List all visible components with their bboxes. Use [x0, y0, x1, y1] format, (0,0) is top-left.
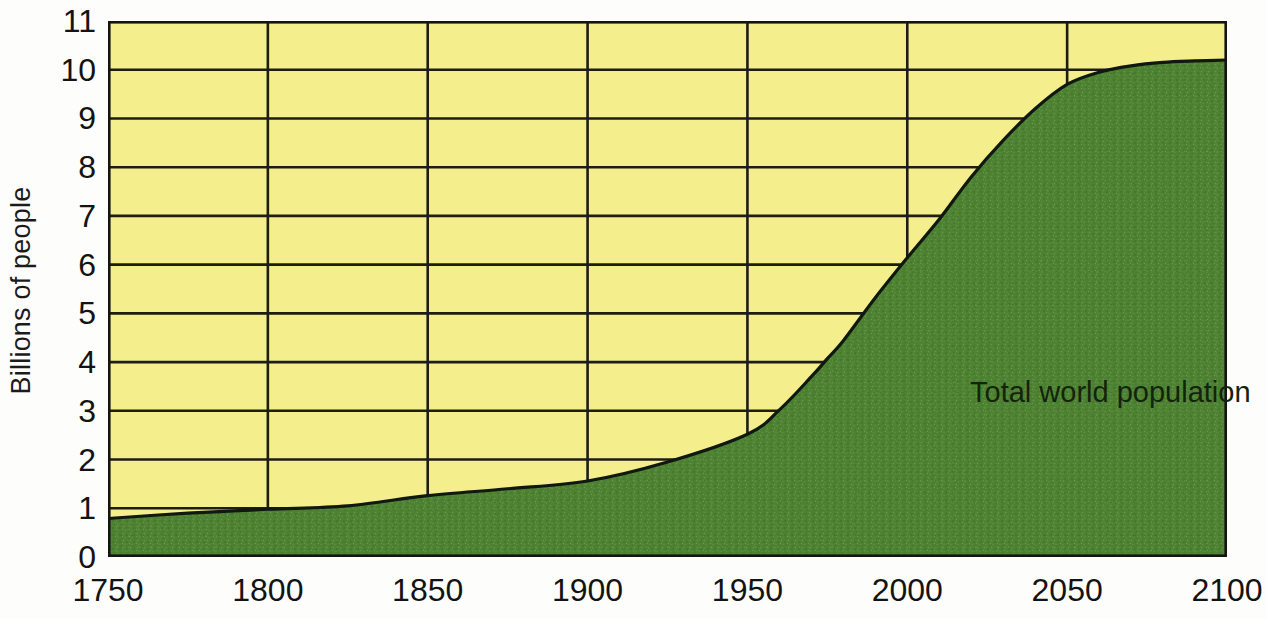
chart-figure: Billions of people 01234567891011 — [0, 0, 1267, 619]
x-tick-label: 1750 — [72, 570, 143, 610]
x-tick-label: 1900 — [552, 570, 623, 610]
y-tick-label: 10 — [60, 54, 96, 86]
y-tick-label: 6 — [78, 249, 96, 281]
x-tick-label: 1950 — [712, 570, 783, 610]
y-tick-label: 2 — [78, 444, 96, 476]
y-tick-label: 9 — [78, 102, 96, 134]
y-tick-label: 11 — [63, 5, 96, 37]
x-tick-label: 2050 — [1032, 570, 1103, 610]
population-area-chart — [108, 21, 1227, 557]
series-annotation: Total world population — [970, 376, 1251, 409]
x-tick-label: 2000 — [872, 570, 943, 610]
x-tick-label: 1800 — [232, 570, 303, 610]
y-axis-title: Billions of people — [0, 0, 44, 580]
x-tick-label: 1850 — [392, 570, 463, 610]
y-axis-tick-labels: 01234567891011 — [44, 0, 104, 619]
y-tick-label: 5 — [78, 297, 96, 329]
y-tick-label: 0 — [78, 541, 96, 573]
y-tick-label: 1 — [78, 492, 96, 524]
y-tick-label: 4 — [78, 346, 96, 378]
y-tick-label: 7 — [78, 200, 96, 232]
y-tick-label: 8 — [78, 151, 96, 183]
x-tick-label: 2100 — [1191, 570, 1262, 610]
y-tick-label: 3 — [78, 395, 96, 427]
x-axis-tick-labels: 17501800185019001950200020502100 — [0, 570, 1267, 619]
y-axis-title-text: Billions of people — [7, 186, 38, 394]
plot-area: Total world population — [108, 21, 1227, 557]
